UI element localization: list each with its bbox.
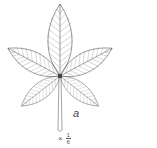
scale-fraction: 1 6 bbox=[66, 132, 71, 145]
scale-annotation: × 1 6 bbox=[58, 132, 71, 145]
scale-denominator: 6 bbox=[67, 139, 70, 145]
leaf-illustration bbox=[0, 0, 157, 148]
figure-label: a bbox=[73, 107, 79, 119]
scale-prefix: × bbox=[58, 134, 63, 143]
